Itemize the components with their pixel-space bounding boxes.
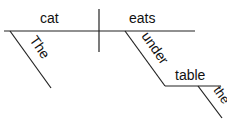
sentence-diagram: cat eats The under table the <box>0 0 227 123</box>
subject-modifier-word: The <box>27 33 54 62</box>
subject-word: cat <box>40 10 59 26</box>
preposition-word: under <box>139 29 173 68</box>
prep-object-word: table <box>175 67 206 83</box>
object-modifier-word: the <box>211 83 227 106</box>
verb-word: eats <box>129 10 155 26</box>
